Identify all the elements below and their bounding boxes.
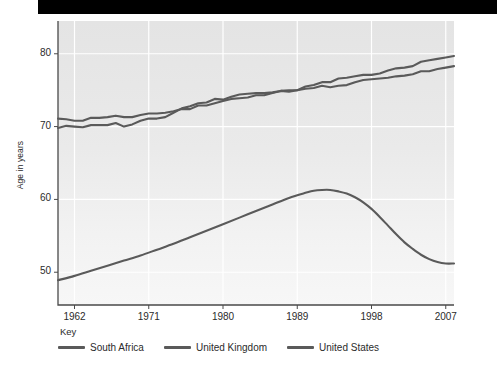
y-axis-title: Age in years	[15, 120, 25, 210]
legend-line-swatch	[287, 346, 314, 349]
x-tick-label: 1971	[124, 311, 174, 322]
legend-item-united-states[interactable]: United States	[287, 342, 379, 353]
y-tick-label: 50	[25, 265, 51, 276]
x-tick-label: 1962	[50, 311, 100, 322]
y-tick-label: 70	[25, 120, 51, 131]
legend-label: South Africa	[90, 342, 144, 353]
x-tick-label: 1989	[272, 311, 322, 322]
y-tick-label: 60	[25, 192, 51, 203]
legend-label: United Kingdom	[196, 342, 267, 353]
x-tick-label: 2007	[421, 311, 471, 322]
legend-line-swatch	[58, 346, 85, 349]
life-expectancy-chart: Age in years 50607080 196219711980198919…	[0, 0, 502, 376]
legend-title: Key	[60, 326, 478, 337]
legend-label: United States	[319, 342, 379, 353]
y-tick-label: 80	[25, 47, 51, 58]
legend-items: South AfricaUnited KingdomUnited States	[58, 342, 478, 353]
legend-item-united-kingdom[interactable]: United Kingdom	[164, 342, 267, 353]
x-tick-label: 1998	[347, 311, 397, 322]
x-tick-label: 1980	[198, 311, 248, 322]
legend-item-south-africa[interactable]: South Africa	[58, 342, 144, 353]
legend-line-swatch	[164, 346, 191, 349]
chart-legend: Key South AfricaUnited KingdomUnited Sta…	[58, 326, 478, 353]
